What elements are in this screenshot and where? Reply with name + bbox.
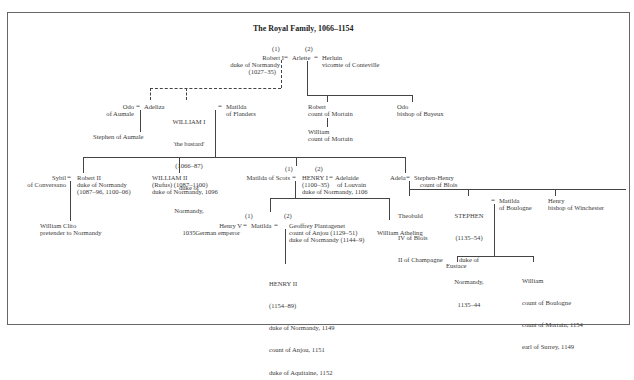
descent-line bbox=[270, 198, 271, 212]
diagram-title: The Royal Family, 1066–1154 bbox=[253, 24, 353, 33]
descent-line bbox=[296, 157, 297, 166]
person-henry-2: HENRY II (1154–89) duke of Normandy, 114… bbox=[269, 265, 335, 380]
descent-line bbox=[327, 95, 328, 102]
person-name: WILLIAM I bbox=[160, 118, 218, 125]
person-title: 1135–44 bbox=[448, 301, 490, 308]
person-dates: (1066–87) bbox=[160, 162, 218, 169]
dashed-line bbox=[186, 88, 187, 100]
marriage-symbol: = bbox=[67, 173, 71, 181]
person-title: Normandy, bbox=[448, 278, 490, 285]
descent-line bbox=[215, 110, 216, 157]
person-eustace: Eustace bbox=[446, 262, 467, 269]
descent-line bbox=[70, 181, 71, 221]
marriage-symbol: = bbox=[329, 173, 333, 181]
marriage-symbol: = bbox=[406, 173, 410, 181]
person-william-mortain-title: count of Mortain bbox=[308, 135, 353, 142]
person-robert-mortain-title: count of Mortain bbox=[308, 110, 353, 117]
person-stephen-aumale: Stephen of Aumale bbox=[93, 133, 144, 140]
person-title: IV of Blois bbox=[398, 234, 443, 241]
dashed-line bbox=[281, 60, 282, 88]
person-william-clito-title: pretender to Normandy bbox=[40, 229, 102, 236]
marriage-number: (2) bbox=[315, 165, 323, 172]
person-title: duke of Aquitaine, 1152 bbox=[269, 369, 335, 376]
person-henry-5-title: German emperor bbox=[180, 229, 240, 236]
marriage-number: (1) bbox=[245, 212, 253, 219]
person-matilda-scots: Matilda of Scots bbox=[220, 174, 290, 181]
descent-line bbox=[83, 157, 84, 173]
descent-line bbox=[555, 189, 556, 196]
marriage-number: (1) bbox=[285, 165, 293, 172]
person-theobald: Theobald IV of Blois II of Champagne bbox=[398, 197, 443, 271]
person-title: earl of Surrey, 1149 bbox=[522, 343, 583, 350]
descent-line bbox=[307, 95, 412, 96]
descent-line bbox=[405, 157, 406, 173]
descent-line bbox=[179, 157, 180, 173]
marriage-symbol: = bbox=[292, 173, 296, 181]
marriage-number: (1) bbox=[272, 45, 280, 52]
dashed-line bbox=[150, 88, 151, 100]
descent-line bbox=[409, 189, 626, 190]
descent-line bbox=[457, 256, 533, 257]
person-title: Normandy, bbox=[160, 207, 218, 214]
person-adela: Adela bbox=[390, 174, 406, 181]
person-odo-aumale-title: of Aumale bbox=[70, 110, 134, 117]
person-herluin-title: vicomte of Conteville bbox=[322, 61, 380, 68]
person-title: count of Boulogne bbox=[522, 299, 583, 306]
person-matilda-boulogne-title: of Boulogne bbox=[499, 204, 532, 211]
person-robert-1-dates: (1027–35) bbox=[220, 68, 276, 75]
person-title: count of Mortain, 1154 bbox=[522, 321, 583, 328]
descent-line bbox=[412, 95, 413, 102]
descent-line bbox=[409, 189, 410, 196]
descent-line bbox=[327, 118, 328, 127]
person-odo-bayeux-title: bishop of Bayeux bbox=[397, 110, 444, 117]
person-title: count of Anjou, 1151 bbox=[269, 346, 335, 353]
descent-line bbox=[389, 198, 390, 220]
marriage-number: (2) bbox=[284, 212, 292, 219]
descent-line bbox=[140, 110, 141, 132]
marriage-symbol: = bbox=[314, 53, 318, 61]
marriage-number: (2) bbox=[305, 45, 313, 52]
dashed-line bbox=[150, 88, 281, 89]
person-title: II of Champagne bbox=[398, 256, 443, 263]
descent-line bbox=[468, 189, 469, 196]
person-william-boulogne: William count of Boulogne count of Morta… bbox=[522, 262, 583, 358]
person-sybil-title: of Conversano bbox=[10, 181, 66, 188]
person-robert-2-dates: (1087–96, 1100–06) bbox=[77, 188, 131, 195]
person-geoffrey-title-2: duke of Normandy (1144–9) bbox=[289, 236, 364, 243]
person-henry-1-title: duke of Normandy, 1106 bbox=[302, 188, 368, 195]
person-epithet: 'the bastard' bbox=[160, 140, 218, 147]
marriage-symbol: = bbox=[218, 102, 222, 110]
marriage-symbol: = bbox=[284, 53, 288, 61]
person-stephen-henry-title: count of Blois bbox=[420, 181, 457, 188]
person-name: Theobald bbox=[398, 212, 443, 219]
marriage-symbol: = bbox=[136, 102, 140, 110]
descent-line bbox=[307, 61, 308, 95]
person-name: STEPHEN bbox=[448, 212, 490, 219]
descent-line bbox=[494, 204, 495, 256]
descent-line bbox=[295, 181, 296, 198]
person-william-2-title: duke of Normandy, 1096 bbox=[152, 188, 218, 195]
marriage-symbol: = bbox=[243, 221, 247, 229]
descent-line bbox=[409, 181, 410, 189]
marriage-symbol: = bbox=[274, 221, 278, 229]
descent-line bbox=[270, 198, 389, 199]
person-title: duke of Normandy, 1149 bbox=[269, 324, 335, 331]
person-matilda-flanders-title: of Flanders bbox=[226, 110, 256, 117]
person-name: HENRY II bbox=[269, 280, 335, 287]
person-name: William bbox=[522, 277, 583, 284]
descent-line bbox=[83, 157, 405, 158]
person-dates: (1154–89) bbox=[269, 302, 335, 309]
person-matilda: Matilda bbox=[251, 222, 272, 229]
descent-line bbox=[285, 229, 286, 264]
marriage-symbol: = bbox=[491, 196, 495, 204]
person-dates: (1135–54) bbox=[448, 234, 490, 241]
person-henry-winchester-title: bishop of Winchester bbox=[548, 204, 604, 211]
